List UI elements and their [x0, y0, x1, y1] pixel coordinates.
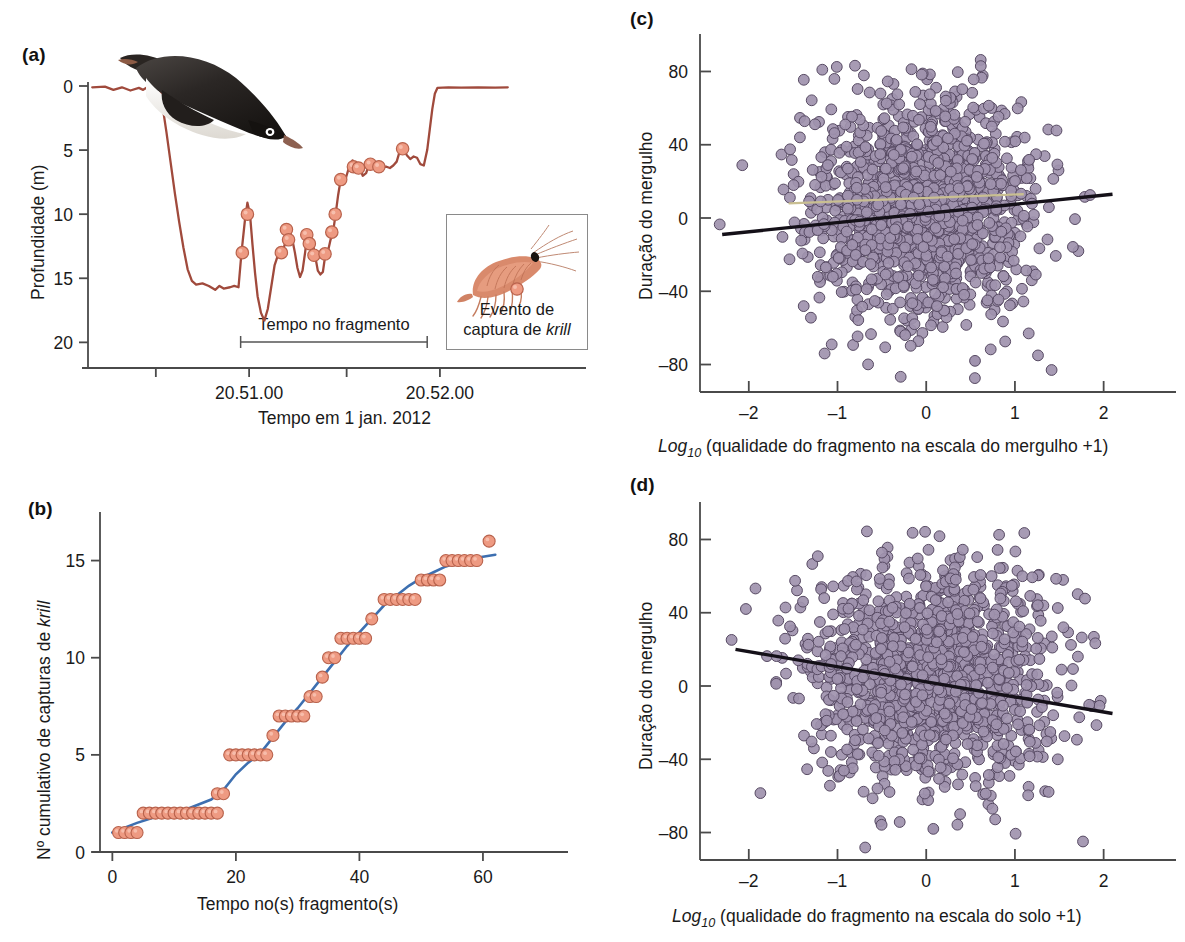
scatter-point [879, 725, 890, 736]
scatter-point [983, 100, 994, 111]
scatter-point [1032, 633, 1043, 644]
data-point-highlight [269, 732, 273, 736]
scatter-point [928, 274, 939, 285]
scatter-point [750, 583, 761, 594]
panel-b-y-tick-label: 0 [75, 843, 85, 863]
krill-dot-highlight [321, 250, 325, 254]
scatter-point [1024, 751, 1035, 762]
data-point-highlight [146, 810, 150, 814]
scatter-point [773, 615, 784, 626]
panel-a-y-tick-label: 5 [63, 141, 73, 161]
data-point-highlight [306, 693, 310, 697]
scatter-point [995, 242, 1006, 253]
scatter-point [863, 359, 874, 370]
scatter-point [714, 219, 725, 230]
scatter-point-outlier [970, 355, 981, 366]
scatter-point [873, 750, 884, 761]
scatter-point [851, 182, 862, 193]
scatter-point [903, 221, 914, 232]
scatter-point [851, 684, 862, 695]
scatter-point [912, 553, 923, 564]
scatter-point [1030, 183, 1041, 194]
scatter-point [957, 544, 968, 555]
scatter-point [838, 709, 849, 720]
scatter-point [903, 647, 914, 658]
scatter-point [851, 639, 862, 650]
scatter-point [898, 163, 909, 174]
data-point [434, 574, 446, 586]
scatter-point [1003, 668, 1014, 679]
scatter-point [830, 178, 841, 189]
scatter-point [898, 122, 909, 133]
scatter-point [945, 166, 956, 177]
scatter-point [854, 610, 865, 621]
scatter-point [1090, 638, 1101, 649]
scatter-point [996, 178, 1007, 189]
data-point-highlight [152, 810, 156, 814]
scatter-point [829, 128, 840, 139]
scatter-point [991, 719, 1002, 730]
scatter-point [1008, 255, 1019, 266]
panel-c-y-axis-label: Duração do mergulho [636, 132, 657, 300]
krill-dot-highlight [328, 228, 332, 232]
scatter-point [888, 150, 899, 161]
scatter-point [966, 704, 977, 715]
time-in-patch-bracket: Tempo no fragmento [241, 315, 428, 348]
data-point-highlight [405, 596, 409, 600]
panel-d-x-axis-label-rest: (qualidade do fragmento na escala do sol… [715, 906, 1081, 926]
scatter-point [1012, 103, 1023, 114]
scatter-point [883, 258, 894, 269]
scatter-point [1066, 680, 1077, 691]
scatter-point [998, 739, 1009, 750]
scatter-point [876, 819, 887, 830]
c-x-tick-label: 1 [1010, 403, 1020, 423]
scatter-point [843, 603, 854, 614]
panel-a-y-tick-label: 10 [54, 205, 74, 225]
scatter-point [1010, 136, 1021, 147]
scatter-point [823, 160, 834, 171]
scatter-point [913, 270, 924, 281]
data-point-highlight [257, 751, 261, 755]
scatter-point [1006, 580, 1017, 591]
scatter-point [994, 563, 1005, 574]
data-point-highlight [133, 829, 137, 833]
krill-capture-dot [275, 246, 287, 258]
scatter-point [897, 728, 908, 739]
scatter-point [831, 62, 842, 73]
scatter-point [1021, 680, 1032, 691]
data-point [211, 807, 223, 819]
data-point-highlight [368, 615, 372, 619]
scatter-point [857, 301, 868, 312]
panel-b-x-tick-label: 0 [107, 867, 117, 887]
scatter-point [884, 616, 895, 627]
scatter-point [987, 803, 998, 814]
scatter-point [860, 842, 871, 853]
data-point-highlight [214, 810, 218, 814]
panel-b-y-tick-label: 10 [66, 648, 86, 668]
scatter-point [943, 597, 954, 608]
panel-a-label: (a) [22, 44, 46, 66]
scatter-point [959, 289, 970, 300]
scatter-point [962, 135, 973, 146]
scatter-point [971, 172, 982, 183]
d-scatter-points [726, 526, 1106, 853]
scatter-point [967, 154, 978, 165]
scatter-point [1091, 720, 1102, 731]
data-point-highlight [442, 557, 446, 561]
krill-capture-dot [282, 234, 294, 246]
data-point-highlight [448, 557, 452, 561]
scatter-point [1010, 176, 1021, 187]
scatter-point [798, 596, 809, 607]
krill-dot-highlight [331, 210, 335, 214]
scatter-point [839, 765, 850, 776]
d-y-tick-label: –40 [659, 750, 688, 770]
scatter-point [851, 284, 862, 295]
scatter-point [828, 690, 839, 701]
scatter-point [902, 261, 913, 272]
krill-capture-dot [352, 162, 364, 174]
panel-d-label: (d) [630, 474, 655, 496]
scatter-point [806, 95, 817, 106]
scatter-point [891, 134, 902, 145]
data-point-highlight [140, 810, 144, 814]
data-point-highlight [127, 829, 131, 833]
